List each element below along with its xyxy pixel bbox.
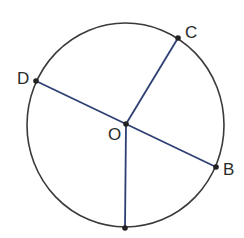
segment-OA: [125, 124, 126, 228]
point-B: [213, 164, 219, 170]
point-A: [122, 225, 128, 231]
circle-diagram: [0, 0, 244, 238]
label-O: O: [108, 126, 121, 143]
label-D: D: [17, 70, 29, 87]
point-D: [33, 78, 39, 84]
point-C: [175, 35, 181, 41]
label-B: B: [223, 161, 234, 178]
point-O: [123, 121, 129, 127]
label-C: C: [185, 24, 197, 41]
segment-OC: [126, 38, 178, 124]
